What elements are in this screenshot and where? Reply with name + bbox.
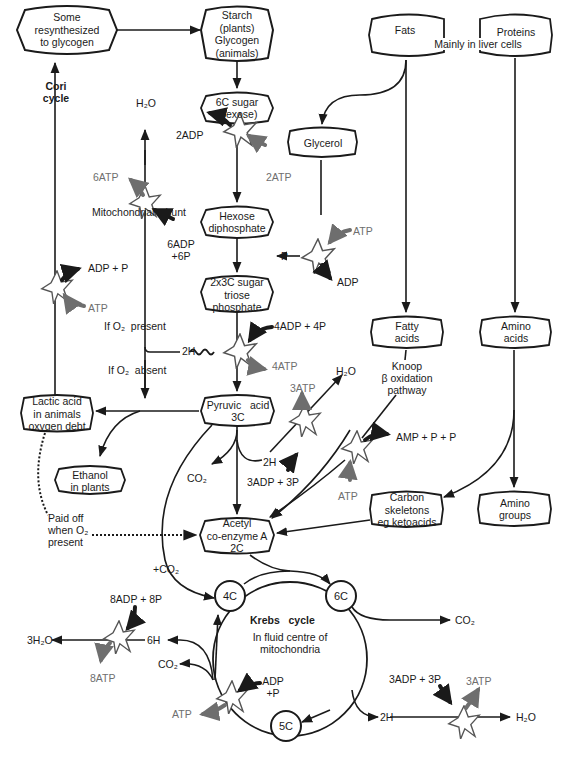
- co2-krebs-left-label: CO₂: [158, 658, 178, 670]
- h2-triose-label: 2H: [182, 345, 195, 357]
- text-line: groups: [499, 509, 531, 522]
- text-line: Glycogen: [215, 34, 259, 47]
- text-line: to glycogen: [40, 36, 94, 49]
- node-label-carbon-skeletons: Carbon skeletons eg ketoacids: [372, 491, 442, 529]
- adp8-p8-label: 8ADP + 8P: [110, 593, 162, 605]
- text-line: oxygen debt: [28, 420, 85, 433]
- krebs-6c-label: 6C: [325, 580, 357, 612]
- text-line: +6P: [163, 250, 199, 262]
- text-line: co-enzyme A: [207, 530, 268, 543]
- adp3-p3-bottom-label: 3ADP + 3P: [389, 673, 441, 685]
- node-label-proteins: Proteins: [490, 26, 542, 38]
- h6-label: 6H: [147, 634, 160, 646]
- h2o3-label: 3H₂O: [27, 634, 53, 646]
- text-line: resynthesized: [35, 24, 100, 37]
- cori-cycle-label: Cori cycle: [40, 80, 72, 104]
- adp-p-krebs-label: ADP +P: [260, 675, 286, 699]
- star-reaction-pyruvate-h: [290, 404, 321, 437]
- mitochondrial-shunt-label: Mitochondrial shunt: [92, 206, 186, 218]
- text-line: Lactic acid: [32, 395, 82, 408]
- atp-glycerol-label: ATP: [353, 225, 373, 237]
- node-label-starch: Starch (plants) Glycogen (animals): [203, 8, 271, 60]
- node-label-ethanol: Ethanol in plants: [57, 467, 123, 495]
- text-line: diphosphate: [208, 222, 265, 235]
- node-label-fatty-acids: Fatty acids: [373, 318, 441, 346]
- node-label-hexose-diphosphate: Hexose diphosphate: [203, 208, 271, 236]
- if-o2-absent-label: If O₂ absent: [108, 364, 166, 376]
- node-label-glycogen-resynth: Some resynthesized to glycogen: [20, 10, 114, 50]
- paid-off-label: Paid off when O₂ present: [48, 512, 88, 548]
- text-line: mitochondria: [250, 643, 330, 655]
- node-label-triose-phosphate: 2x3C sugar triose phosphate: [203, 276, 271, 314]
- text-line: β oxidation: [377, 372, 437, 384]
- adp3-p3-mid-label: 3ADP + 3P: [247, 476, 299, 488]
- text-line: when O₂: [48, 524, 88, 536]
- liver-cells-note: Mainly in liver cells: [418, 38, 538, 50]
- text-line: skeletons: [385, 504, 429, 517]
- krebs-cycle-subtitle: In fluid centre of mitochondria: [250, 631, 330, 655]
- h2-bottom-label: 2H: [380, 711, 393, 723]
- star-reaction-glycerol: [302, 239, 334, 274]
- text-line: Amino: [501, 320, 531, 333]
- text-line: in animals: [33, 408, 80, 421]
- if-o2-present-label: If O₂ present: [104, 320, 166, 332]
- p-glycerol-label: P: [281, 250, 288, 262]
- text-line: Fatty: [395, 320, 418, 333]
- text-line: cycle: [40, 92, 72, 104]
- krebs-5c-label: 5C: [270, 710, 302, 742]
- h2o-mid-label: H₂O: [336, 365, 356, 377]
- text-line: 6ADP: [163, 238, 199, 250]
- text-line: 2x3C sugar: [210, 276, 264, 289]
- text-line: In fluid centre of: [250, 631, 330, 643]
- plus-co2-label: +CO₂: [153, 563, 179, 575]
- text-line: Amino: [500, 497, 530, 510]
- text-line: present: [48, 536, 88, 548]
- text-line: 6C sugar: [216, 96, 259, 109]
- node-label-lactic-acid: Lactic acid in animals oxygen debt: [22, 395, 92, 433]
- atp3-mid-label: 3ATP: [290, 382, 315, 394]
- text-line: acids: [395, 332, 420, 345]
- text-line: Carbon: [390, 491, 424, 504]
- text-line: (hexose): [217, 108, 258, 121]
- co2-pyruvic-label: CO₂: [187, 472, 207, 484]
- text-line: Knoop: [377, 360, 437, 372]
- atp-cori-label: ATP: [88, 302, 108, 314]
- node-label-fats: Fats: [385, 24, 425, 36]
- adp-glycerol-label: ADP: [337, 276, 359, 288]
- h2o-top-label: H₂O: [132, 97, 160, 109]
- text-line: 3C: [231, 411, 244, 424]
- text-line: Paid off: [48, 512, 88, 524]
- adp6-p6-label: 6ADP +6P: [163, 238, 199, 262]
- node-label-pyruvic-acid: Pyruvic acid 3C: [203, 397, 273, 425]
- text-line: Hexose: [219, 210, 255, 223]
- atp8-label: 8ATP: [90, 672, 115, 684]
- text-line: Cori: [40, 80, 72, 92]
- node-label-hexose: 6C sugar (hexose): [203, 94, 271, 122]
- text-line: Some: [53, 11, 80, 24]
- atp3-bottom-label: 3ATP: [466, 675, 491, 687]
- node-label-glycerol: Glycerol: [290, 137, 356, 149]
- node-label-acetyl-coa: Acetyl co-enzyme A 2C: [202, 517, 272, 555]
- text-line: triose: [224, 289, 250, 302]
- text-line: in plants: [70, 481, 109, 494]
- atp4-label: 4ATP: [272, 360, 297, 372]
- atp2-label: 2ATP: [266, 171, 291, 183]
- text-line: Acetyl: [223, 517, 252, 530]
- text-line: (animals): [215, 47, 258, 60]
- knoop-label: Knoop β oxidation pathway: [377, 360, 437, 396]
- co2-krebs-right-label: CO₂: [455, 614, 475, 626]
- text-line: +P: [260, 687, 286, 699]
- adp2-label: 2ADP: [176, 129, 203, 141]
- text-line: phosphate: [212, 301, 261, 314]
- text-line: eg ketoacids: [378, 516, 437, 529]
- text-line: (plants): [219, 22, 254, 35]
- krebs-4c-label: 4C: [214, 580, 246, 612]
- atp-beta-label: ATP: [338, 490, 358, 502]
- adp4-p4-label: 4ADP + 4P: [274, 320, 326, 332]
- star-reaction-bottom: [449, 706, 480, 739]
- node-label-amino-groups: Amino groups: [480, 495, 550, 523]
- text-line: Ethanol: [72, 469, 108, 482]
- h2o-bottom-label: H₂O: [516, 711, 536, 723]
- adp-p-cori-label: ADP + P: [88, 262, 128, 274]
- text-line: pathway: [377, 384, 437, 396]
